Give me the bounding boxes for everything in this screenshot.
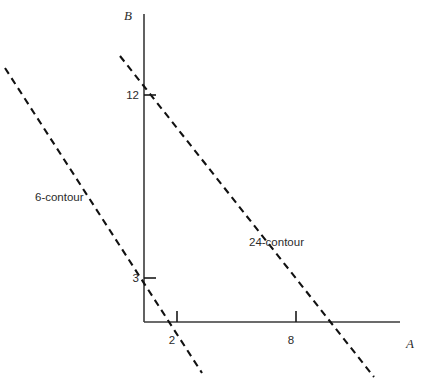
y-tick-label-12: 12 [126,89,139,101]
y-tick-label-3: 3 [133,272,139,284]
contour-plot-figure: 12 3 2 8 B A 6-contour 24-contour [0,0,428,384]
contour-label-6: 6-contour [35,191,84,203]
contour-line-24 [120,56,374,377]
x-axis-label: A [405,336,414,351]
contour-label-24: 24-contour [249,236,304,248]
plot-canvas: 12 3 2 8 B A 6-contour 24-contour [0,0,428,384]
x-tick-label-8: 8 [288,334,294,346]
contour-line-6 [5,68,202,373]
y-axis-label: B [124,8,132,23]
x-tick-label-2: 2 [169,334,175,346]
